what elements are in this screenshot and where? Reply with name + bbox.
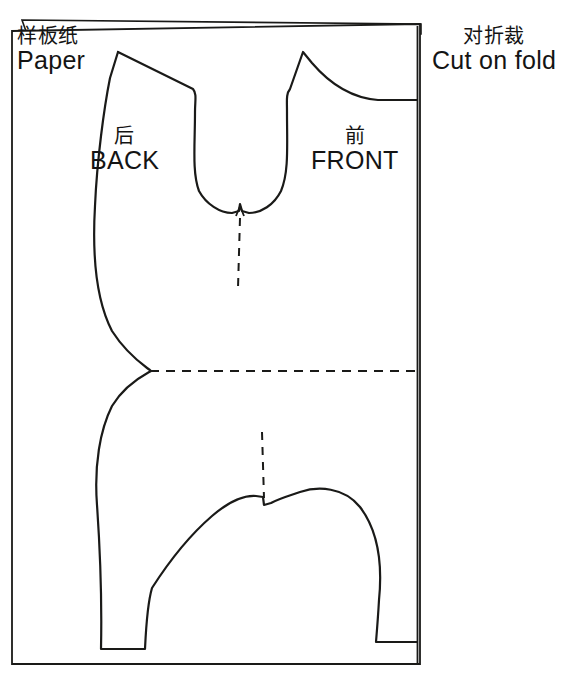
label-cut-on-fold-cn: 对折裁 [432,26,556,47]
label-cut-on-fold-en: Cut on fold [432,47,556,73]
pattern-drawing [0,0,567,676]
label-back-en: BACK [90,147,159,173]
label-paper: 样板纸 Paper [17,26,85,73]
label-paper-cn: 样板纸 [17,26,85,47]
pattern-diagram-page: 样板纸 Paper 对折裁 Cut on fold 后 BACK 前 FRONT [0,0,567,676]
label-back-cn: 后 [90,126,159,147]
label-back: 后 BACK [90,126,159,173]
label-front-cn: 前 [311,126,399,147]
label-cut-on-fold: 对折裁 Cut on fold [432,26,556,73]
label-front: 前 FRONT [311,126,399,173]
label-front-en: FRONT [311,147,399,173]
label-paper-en: Paper [17,47,85,73]
paper-top-sheet [12,24,420,664]
